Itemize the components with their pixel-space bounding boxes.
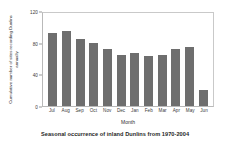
x-tick-label: May <box>183 108 197 117</box>
bar-slot <box>46 13 60 106</box>
bar[interactable] <box>76 39 85 106</box>
bar-slot <box>101 13 115 106</box>
bar-slot <box>87 13 101 106</box>
y-axis-ticks: 120 80 40 0 <box>0 12 42 107</box>
x-tick-label: Oct <box>86 108 100 117</box>
x-tick-label: Jun <box>197 108 211 117</box>
bar[interactable] <box>62 31 71 106</box>
bar-slot <box>73 13 87 106</box>
bar-slot <box>183 13 197 106</box>
chart-figure: Cumulative number of sites recording Dun… <box>0 0 230 150</box>
y-tick-label: 80 <box>33 41 38 46</box>
x-tick-label: Apr <box>169 108 183 117</box>
bar-slot <box>142 13 156 106</box>
bar-slot <box>169 13 183 106</box>
bar[interactable] <box>199 90 208 106</box>
bars-layer <box>43 13 213 106</box>
bar-slot <box>128 13 142 106</box>
bar[interactable] <box>171 49 180 106</box>
y-tick-label: 0 <box>35 105 38 110</box>
x-tick-label: Jul <box>45 108 59 117</box>
x-tick-label: Sep <box>73 108 87 117</box>
x-tick-label: Mar <box>156 108 170 117</box>
x-tick-label: Aug <box>59 108 73 117</box>
bar[interactable] <box>117 55 126 106</box>
bar[interactable] <box>89 43 98 106</box>
y-tick-label: 120 <box>30 10 38 15</box>
bar-slot <box>196 13 210 106</box>
y-tick-label: 40 <box>33 73 38 78</box>
bar-slot <box>114 13 128 106</box>
bar[interactable] <box>48 33 57 106</box>
chart-caption: Seasonal occurrence of inland Dunlins fr… <box>0 131 230 137</box>
bar-slot <box>155 13 169 106</box>
x-tick-label: Nov <box>100 108 114 117</box>
x-tick-label: Dec <box>114 108 128 117</box>
x-axis-title: Month <box>42 119 214 125</box>
bar[interactable] <box>185 47 194 106</box>
bar[interactable] <box>144 56 153 106</box>
x-axis-ticks: Jul Aug Sep Oct Nov Dec Jan Feb Mar Apr … <box>42 108 214 117</box>
bar-slot <box>60 13 74 106</box>
x-tick-label: Jan <box>128 108 142 117</box>
plot-area <box>42 12 214 107</box>
bar[interactable] <box>130 53 139 106</box>
bar[interactable] <box>103 49 112 106</box>
bar[interactable] <box>158 55 167 106</box>
x-tick-label: Feb <box>142 108 156 117</box>
